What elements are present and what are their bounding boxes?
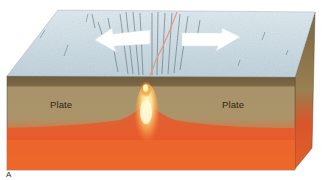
surface-texture [7,10,315,77]
magma-core [140,100,152,124]
panel-label: A [6,170,11,179]
right-plate-label: Plate [222,99,244,110]
plate-boundary-diagram [0,0,325,180]
left-plate-label: Plate [50,99,72,110]
magma-chamber-core [143,85,148,92]
